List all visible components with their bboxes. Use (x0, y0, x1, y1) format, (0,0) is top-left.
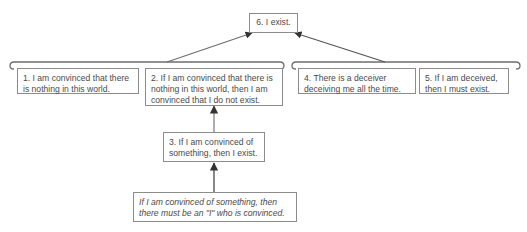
node-4-premise: 4. There is a deceiver deceiving me all … (298, 68, 416, 94)
node-1-premise: 1. I am convinced that there is nothing … (17, 68, 139, 94)
argument-map: 6. I exist. 1. I am convinced that there… (0, 0, 527, 232)
node-3-co-premise: 3. If I am convinced of something, then … (163, 132, 265, 162)
node-5-premise: 5. If I am deceived, then I must exist. (419, 68, 509, 94)
node-2-premise: 2. If I am convinced that there is nothi… (145, 68, 283, 106)
supporting-reason-node: If I am convinced of something, then the… (133, 192, 297, 222)
arrow-right-to-6 (295, 33, 385, 62)
node-6-conclusion: 6. I exist. (249, 13, 298, 33)
arrow-left-to-6 (167, 33, 252, 62)
